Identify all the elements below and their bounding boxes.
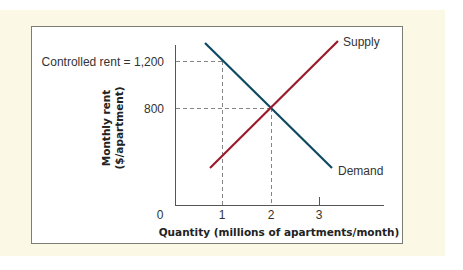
x-tick-2: 2 <box>268 208 275 222</box>
rent-control-chart: Supply Demand Controlled rent = 1,200 80… <box>0 0 463 270</box>
supply-curve <box>210 41 338 168</box>
x-axis-title: Quantity (millions of apartments/month) <box>159 226 400 238</box>
demand-label: Demand <box>338 164 383 178</box>
x-tick-1: 1 <box>219 208 226 222</box>
y-tick-800: 800 <box>144 102 164 116</box>
controlled-rent-label: Controlled rent = 1,200 <box>42 55 165 69</box>
y-axis-title: Monthly rent ($/apartment) <box>100 86 125 169</box>
supply-label: Supply <box>343 35 380 49</box>
guide-lines <box>176 61 272 205</box>
x-tick-3-label: 3 <box>316 208 323 222</box>
x-tick-0: 0 <box>157 208 164 222</box>
demand-curve <box>205 43 332 168</box>
svg-text:($/apartment): ($/apartment) <box>113 86 125 169</box>
svg-text:Monthly rent: Monthly rent <box>100 90 112 167</box>
